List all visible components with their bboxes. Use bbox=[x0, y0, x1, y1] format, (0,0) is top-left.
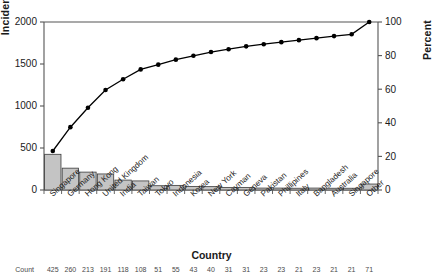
plot-layer: 0500100015002000020406080100SingaporeGer… bbox=[15, 16, 402, 273]
count-row-value: 43 bbox=[190, 266, 198, 273]
y-tick-label-left: 500 bbox=[20, 142, 37, 153]
count-row-value: 260 bbox=[65, 266, 77, 273]
count-row-value: 191 bbox=[100, 266, 112, 273]
cumulative-point bbox=[209, 50, 214, 55]
y-tick-label-right: 0 bbox=[385, 184, 391, 195]
y-tick-label-left: 1500 bbox=[15, 58, 38, 69]
cumulative-point bbox=[156, 62, 161, 67]
cumulative-point bbox=[314, 36, 319, 41]
count-row-value: 213 bbox=[82, 266, 94, 273]
y-tick-label-right: 40 bbox=[385, 117, 397, 128]
count-row-value: 40 bbox=[207, 266, 215, 273]
cumulative-point bbox=[138, 67, 143, 72]
count-row-value: 108 bbox=[135, 266, 147, 273]
cumulative-point bbox=[244, 44, 249, 49]
cumulative-point bbox=[86, 105, 91, 110]
cumulative-point bbox=[191, 53, 196, 58]
count-row-value: 21 bbox=[348, 266, 356, 273]
count-row-value: 23 bbox=[313, 266, 321, 273]
count-row-value: 21 bbox=[295, 266, 303, 273]
count-row-label: Count bbox=[15, 266, 34, 273]
y-tick-label-right: 80 bbox=[385, 50, 397, 61]
cumulative-point bbox=[332, 34, 337, 39]
count-row-value: 31 bbox=[242, 266, 250, 273]
count-row-value: 31 bbox=[225, 266, 233, 273]
count-row-value: 23 bbox=[277, 266, 285, 273]
cumulative-point bbox=[279, 40, 284, 45]
cumulative-point bbox=[297, 38, 302, 43]
cumulative-point bbox=[68, 125, 73, 130]
y-tick-label-left: 2000 bbox=[15, 16, 38, 27]
y-tick-label-right: 100 bbox=[385, 16, 402, 27]
y-tick-label-left: 1000 bbox=[15, 100, 38, 111]
count-row-value: 55 bbox=[172, 266, 180, 273]
cumulative-point bbox=[121, 77, 126, 82]
cumulative-point bbox=[261, 42, 266, 47]
cumulative-point bbox=[50, 149, 55, 154]
cumulative-point bbox=[349, 32, 354, 37]
y-tick-label-left: 0 bbox=[31, 184, 37, 195]
count-row-value: 425 bbox=[47, 266, 59, 273]
count-row-value: 51 bbox=[154, 266, 162, 273]
count-row-value: 21 bbox=[330, 266, 338, 273]
y-tick-label-right: 60 bbox=[385, 84, 397, 95]
cumulative-point bbox=[226, 47, 231, 52]
count-row-value: 71 bbox=[365, 266, 373, 273]
cumulative-point bbox=[174, 57, 179, 62]
cumulative-point bbox=[103, 88, 108, 93]
count-row-value: 118 bbox=[118, 266, 129, 273]
count-row-value: 23 bbox=[260, 266, 268, 273]
cumulative-line bbox=[53, 22, 369, 151]
cumulative-point bbox=[367, 20, 372, 25]
y-tick-label-right: 20 bbox=[385, 151, 397, 162]
